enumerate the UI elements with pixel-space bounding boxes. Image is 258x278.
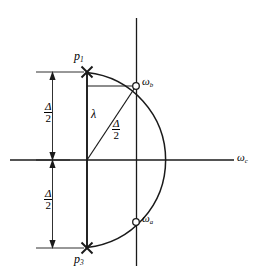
label-p1: p1 (74, 50, 84, 64)
delta-upper-numerator: Δ (44, 101, 52, 112)
label-omega-b-symbol: ω (142, 75, 150, 87)
zero-marker-omega-a (133, 219, 140, 226)
label-lambda: λ (91, 108, 96, 120)
figure-canvas (0, 0, 258, 278)
label-p1-subscript: 1 (80, 55, 84, 64)
zero-marker-omega-b (133, 83, 140, 90)
delta-lower-numerator: Δ (44, 188, 52, 199)
label-omega-a: ωa (142, 213, 153, 226)
delta-radius-denominator: 2 (112, 129, 120, 141)
label-p3-subscript: 3 (80, 258, 84, 267)
label-delta-over-2-radius: Δ 2 (112, 118, 120, 141)
label-omega-b: ωb (142, 76, 153, 89)
label-omega-a-symbol: ω (142, 212, 150, 224)
label-omega-c-symbol: ω (237, 151, 245, 163)
label-p3: p3 (74, 253, 84, 267)
delta-radius-numerator: Δ (112, 118, 120, 129)
label-delta-over-2-lower: Δ 2 (44, 188, 52, 211)
pole-zero-figure: p1 p3 ωb ωa ωc λ Δ 2 Δ 2 Δ 2 (0, 0, 258, 278)
delta-lower-denominator: 2 (44, 199, 52, 211)
delta-upper-denominator: 2 (44, 112, 52, 124)
label-delta-over-2-upper: Δ 2 (44, 101, 52, 124)
label-omega-a-subscript: a (150, 218, 153, 225)
label-omega-c: ωc (237, 152, 248, 165)
label-omega-c-subscript: c (245, 157, 248, 164)
label-omega-b-subscript: b (150, 81, 153, 88)
